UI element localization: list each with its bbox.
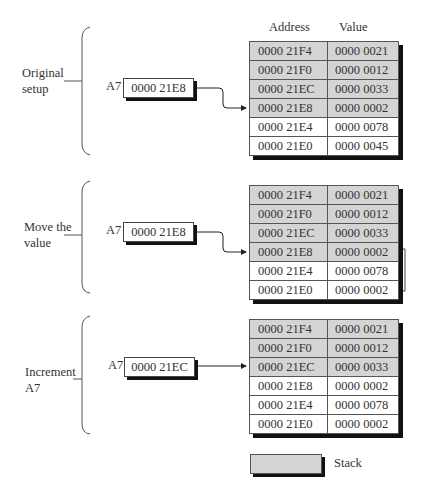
table-row: 0000 21E40000 0078	[250, 118, 399, 137]
table-row: 0000 21E80000 0002	[250, 243, 399, 262]
register-a7-value: 0000 21E8	[123, 78, 194, 98]
table-row: 0000 21F40000 0021	[250, 320, 399, 339]
register-label: A7	[108, 358, 123, 373]
table-row: 0000 21E80000 0002	[250, 377, 399, 396]
table-row: 0000 21E00000 0002	[250, 415, 399, 434]
register-a7-value: 0000 21EC	[124, 357, 195, 377]
table-row: 0000 21EC0000 0033	[250, 224, 399, 243]
table-row: 0000 21E00000 0045	[250, 137, 399, 156]
memory-table: 0000 21F40000 0021 0000 21F00000 0012 00…	[249, 319, 399, 434]
pointer-arrow	[195, 88, 246, 108]
memory-table: 0000 21F40000 0021 0000 21F00000 0012 00…	[249, 41, 399, 156]
table-row: 0000 21F00000 0012	[250, 339, 399, 358]
table-row: 0000 21F40000 0021	[250, 42, 399, 61]
memory-table: 0000 21F40000 0021 0000 21F00000 0012 00…	[249, 185, 399, 300]
brace-icon	[64, 27, 90, 155]
pointer-arrow	[195, 232, 246, 252]
table-row: 0000 21E80000 0002	[250, 99, 399, 118]
table-row: 0000 21F40000 0021	[250, 186, 399, 205]
table-row: 0000 21EC0000 0033	[250, 358, 399, 377]
register-label: A7	[106, 79, 121, 94]
table-row: 0000 21EC0000 0033	[250, 80, 399, 99]
table-row: 0000 21F00000 0012	[250, 61, 399, 80]
legend-swatch-stack	[250, 454, 322, 474]
table-row: 0000 21E40000 0078	[250, 396, 399, 415]
register-label: A7	[106, 223, 121, 238]
step-label: Move the value	[24, 219, 72, 251]
step-label: Increment A7	[25, 364, 76, 396]
register-a7-value: 0000 21E8	[123, 222, 194, 242]
table-row: 0000 21E00000 0002	[250, 281, 399, 300]
table-row: 0000 21E40000 0078	[250, 262, 399, 281]
step-label: Original setup	[22, 65, 64, 97]
table-row: 0000 21F00000 0012	[250, 205, 399, 224]
legend-label: Stack	[334, 456, 362, 471]
